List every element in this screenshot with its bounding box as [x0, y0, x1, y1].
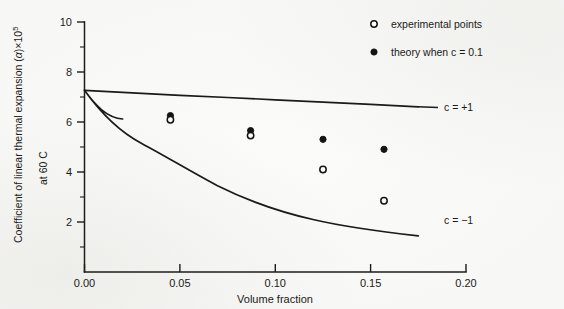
legend-marker-theory — [371, 49, 377, 55]
y-axis-tick-labels: 10 8 6 4 2 — [60, 16, 72, 228]
y-axis-title-group: Coefficient of linear thermal expansion … — [11, 27, 49, 243]
x-tick-label-000: 0.00 — [74, 277, 95, 289]
curve-label-c-plus-1-group: c = +1 — [418, 101, 473, 113]
series-experimental-points — [167, 117, 387, 204]
data-point-experimental-4 — [381, 198, 387, 204]
x-axis-title: Volume fraction — [237, 293, 313, 305]
x-axis-major-ticks — [85, 264, 467, 272]
curve-label-c-minus-1: c = −1 — [444, 214, 473, 226]
y-tick-label-4: 4 — [66, 166, 72, 178]
x-tick-label-015: 0.15 — [360, 277, 381, 289]
data-point-theory-3 — [320, 136, 326, 142]
chart-plot-area: 10 8 6 4 2 0.00 0.05 0.10 0.15 0.20 Volu… — [0, 0, 564, 309]
theory-curve-c-minus-1 — [85, 90, 419, 236]
y-axis-title-second-line: at 60 C — [37, 151, 49, 185]
x-axis-tick-labels: 0.00 0.05 0.10 0.15 0.20 — [74, 277, 477, 289]
curve-leader-line-c-plus-1 — [418, 107, 438, 108]
x-tick-label-005: 0.05 — [169, 277, 190, 289]
legend-marker-experimental — [371, 21, 377, 27]
curve-label-c-minus-1-group: c = −1 — [444, 214, 473, 226]
x-tick-label-020: 0.20 — [455, 277, 476, 289]
series-theory-points — [167, 113, 387, 153]
data-point-experimental-2 — [247, 132, 253, 138]
y-tick-label-6: 6 — [66, 116, 72, 128]
curve-label-c-plus-1: c = +1 — [444, 101, 473, 113]
y-tick-label-8: 8 — [66, 66, 72, 78]
chart-legend: experimental points theory when c = 0.1 — [371, 18, 483, 58]
y-axis-title: Coefficient of linear thermal expansion … — [11, 27, 24, 243]
data-point-theory-4 — [381, 146, 387, 152]
legend-label-experimental: experimental points — [391, 18, 482, 30]
y-tick-label-2: 2 — [66, 216, 72, 228]
data-point-experimental-1 — [167, 117, 173, 123]
y-tick-label-10: 10 — [60, 16, 72, 28]
x-tick-label-010: 0.10 — [265, 277, 286, 289]
data-point-experimental-3 — [320, 166, 326, 172]
legend-label-theory: theory when c = 0.1 — [391, 46, 483, 58]
theory-curve-c-plus-1 — [85, 90, 419, 107]
chart-figure: 10 8 6 4 2 0.00 0.05 0.10 0.15 0.20 Volu… — [0, 0, 564, 309]
